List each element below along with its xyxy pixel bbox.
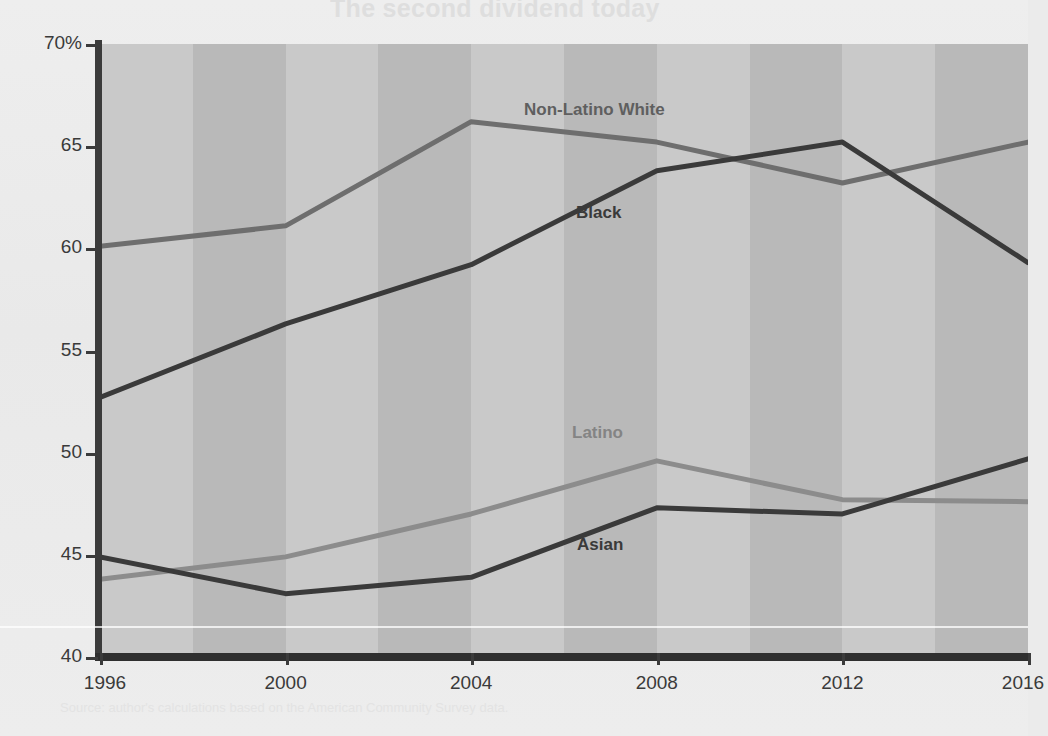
y-tick (86, 146, 98, 149)
series-label: Black (576, 203, 621, 223)
y-tick-label: 55 (20, 339, 82, 361)
series-line (100, 461, 1028, 580)
x-tick (100, 653, 103, 665)
series-line (100, 142, 1028, 397)
x-axis-line (95, 653, 1028, 661)
y-tick-label: 50 (20, 441, 82, 463)
scan-artifact-line (0, 626, 1028, 628)
y-tick (86, 44, 98, 47)
y-tick (86, 351, 98, 354)
y-tick (86, 555, 98, 558)
y-tick-label: 65 (20, 134, 82, 156)
y-tick-label: 40 (20, 645, 82, 667)
x-tick-label: 2012 (797, 672, 887, 694)
y-tick (86, 657, 98, 660)
x-tick (657, 653, 660, 665)
series-label: Asian (577, 535, 623, 555)
x-tick (842, 653, 845, 665)
x-tick (1028, 653, 1031, 665)
y-tick (86, 453, 98, 456)
y-tick-label: 45 (20, 543, 82, 565)
series-label: Non-Latino White (524, 100, 665, 120)
series-line (100, 122, 1028, 247)
x-tick-label: 2016 (978, 672, 1048, 694)
x-tick (286, 653, 289, 665)
y-tick (86, 248, 98, 251)
series-label: Latino (572, 423, 623, 443)
series-line (100, 459, 1028, 594)
x-tick-label: 1996 (60, 672, 150, 694)
y-tick-label: 70% (20, 32, 82, 54)
plot-area (100, 44, 1028, 657)
y-tick-label: 60 (20, 236, 82, 258)
series-lines (100, 44, 1028, 657)
x-tick-label: 2008 (612, 672, 702, 694)
x-tick-label: 2004 (426, 672, 516, 694)
x-tick-label: 2000 (241, 672, 331, 694)
x-tick (471, 653, 474, 665)
